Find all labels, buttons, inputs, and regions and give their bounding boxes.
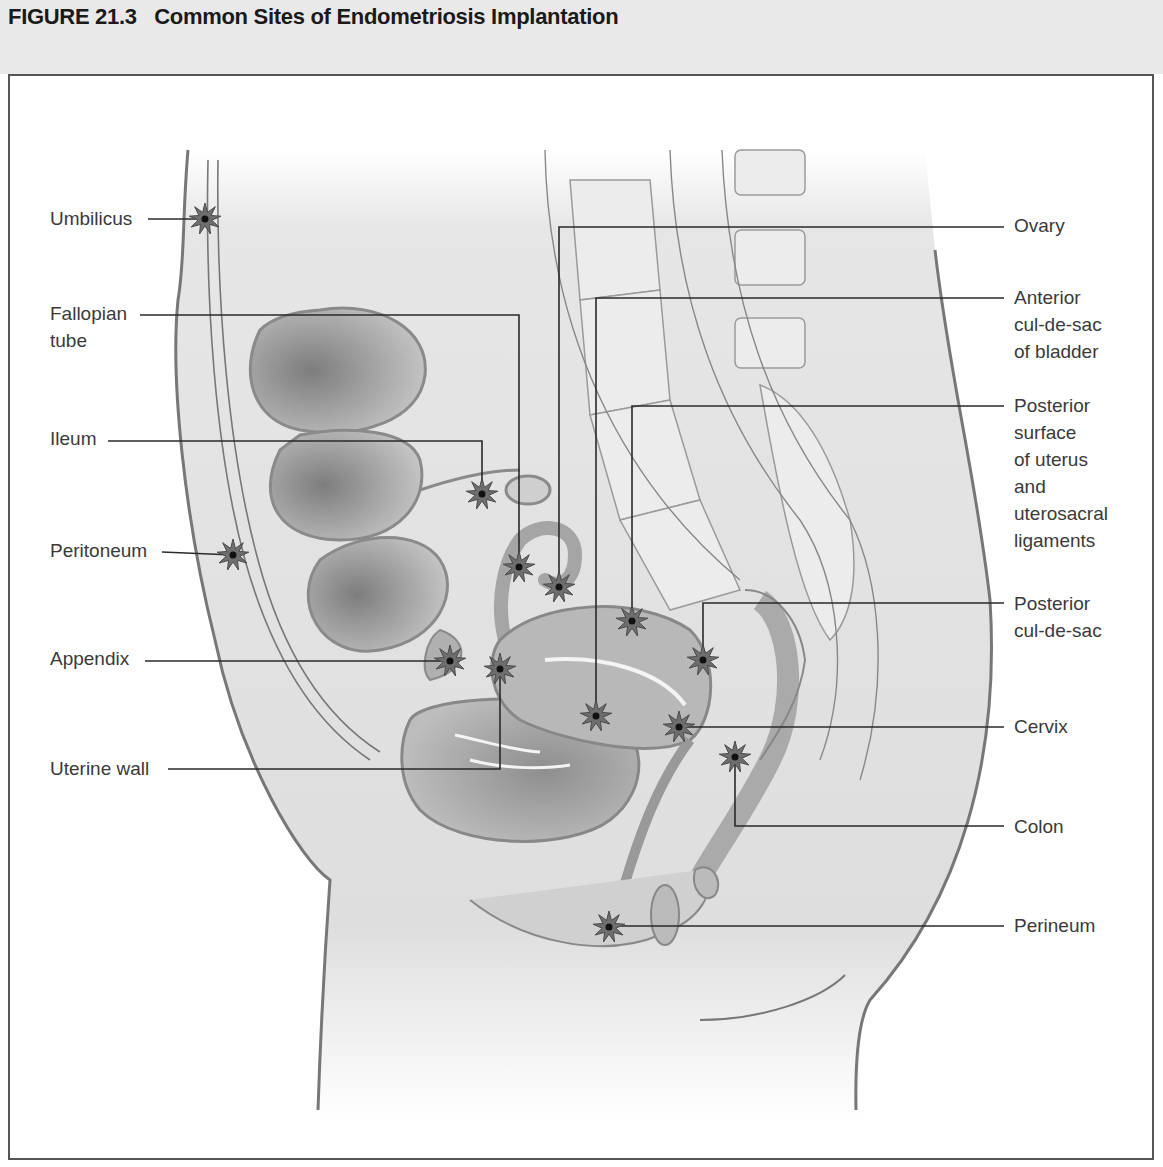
label-cervix: Cervix xyxy=(1014,713,1068,740)
label-fallopian-tube: Fallopian tube xyxy=(50,300,127,354)
label-peritoneum: Peritoneum xyxy=(50,537,147,564)
label-appendix: Appendix xyxy=(50,645,129,672)
label-ovary: Ovary xyxy=(1014,212,1065,239)
label-posterior-surface-uterus: Posterior surface of uterus and uterosac… xyxy=(1014,392,1108,554)
label-perineum: Perineum xyxy=(1014,912,1095,939)
label-posterior-cul-de-sac: Posterior cul-de-sac xyxy=(1014,590,1102,644)
label-uterine-wall: Uterine wall xyxy=(50,755,149,782)
label-colon: Colon xyxy=(1014,813,1064,840)
label-ileum: Ileum xyxy=(50,425,96,452)
label-anterior-cul-de-sac: Anterior cul-de-sac of bladder xyxy=(1014,284,1102,365)
label-umbilicus: Umbilicus xyxy=(50,205,132,232)
anatomy-illustration xyxy=(0,0,1163,1167)
